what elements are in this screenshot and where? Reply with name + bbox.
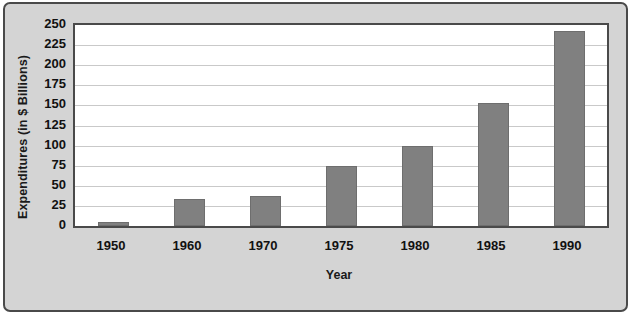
y-tick-label: 225 (28, 37, 66, 50)
bar-series (75, 25, 607, 226)
x-tick-label: 1950 (76, 238, 146, 254)
y-tick-label: 100 (28, 137, 66, 150)
y-tick-label: 175 (28, 77, 66, 90)
bar (554, 31, 585, 226)
x-tick-label: 1990 (532, 238, 602, 254)
bar (174, 199, 205, 226)
bar (402, 146, 433, 226)
bar (250, 196, 281, 226)
plot-area (73, 23, 609, 228)
y-tick-label: 250 (28, 17, 66, 30)
y-tick-label: 75 (28, 157, 66, 170)
x-tick-label: 1960 (152, 238, 222, 254)
y-tick-label: 125 (28, 117, 66, 130)
bar (326, 166, 357, 226)
y-tick-label: 200 (28, 57, 66, 70)
x-tick-label: 1970 (228, 238, 298, 254)
y-tick-label: 150 (28, 97, 66, 110)
x-axis-title: Year (73, 268, 605, 282)
bar (478, 103, 509, 226)
y-tick-label: 50 (28, 177, 66, 190)
y-axis-tick-labels: 0255075100125150175200225250 (28, 23, 66, 224)
y-tick-label: 25 (28, 197, 66, 210)
x-axis-tick-labels: 1950196019701975198019851990 (73, 238, 605, 256)
x-tick-label: 1985 (456, 238, 526, 254)
bar-chart-figure: Expenditures (in $ Billions) 02550751001… (0, 0, 631, 316)
x-tick-label: 1975 (304, 238, 374, 254)
y-tick-label: 0 (28, 218, 66, 231)
x-tick-label: 1980 (380, 238, 450, 254)
bar (98, 222, 129, 226)
